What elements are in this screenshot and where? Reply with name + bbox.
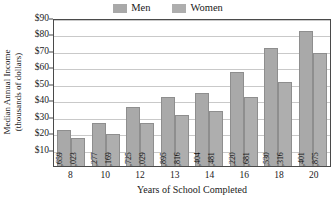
bar-women-13: 30,816 [175,115,189,166]
y-axis-tick-label: $30 [35,113,49,123]
y-axis-tick-label: $10 [35,146,49,156]
y-axis-tick-label: $50 [35,80,49,90]
bar-value-label: 51,316 [277,152,285,167]
x-axis-tick-label: 12 [123,169,158,182]
bar-men-20: 82,401 [299,31,313,167]
bar-women-16: 41,681 [244,97,258,166]
men-swatch [113,4,127,13]
bar-women-18: 51,316 [278,82,292,166]
x-axis-tick-label: 14 [192,169,227,182]
plot-area: 21,65917,02326,27719,16935,72526,02941,8… [53,19,331,167]
bar-value-label: 68,875 [312,152,320,167]
y-axis-tick-label: $90 [35,14,49,24]
bar-value-label: 30,816 [174,152,182,167]
bar-value-label: 33,481 [208,152,216,167]
y-axis-tick-label: $60 [35,64,49,74]
bar-women-12: 26,029 [140,123,154,166]
x-axis-title: Years of School Completed [53,184,331,195]
x-axis-tick-label: 10 [88,169,123,182]
bar-group-16: 57,22041,681 [227,20,262,166]
bar-group-14: 44,40433,481 [192,20,227,166]
bar-group-13: 41,89530,816 [158,20,193,166]
x-axis-tick-label: 8 [53,169,88,182]
legend-item-men: Men [113,3,150,14]
bar-group-8: 21,65917,023 [54,20,89,166]
y-axis-title: Median Annual Income (thousands of dolla… [0,16,26,168]
y-axis-tick-label: $80 [35,31,49,41]
bar-value-label: 26,029 [139,152,147,167]
y-axis-title-line2: (thousands of dollars) [13,50,24,135]
x-axis-tick-label: 13 [157,169,192,182]
y-axis-tick-label: $70 [35,47,49,57]
bar-value-label: 26,277 [91,152,99,167]
bar-value-label: 71,530 [263,152,271,167]
bar-value-label: 17,023 [70,152,78,167]
legend-label-women: Women [190,3,222,14]
bar-groups: 21,65917,02326,27719,16935,72526,02941,8… [54,20,330,166]
bar-women-14: 33,481 [209,111,223,166]
bar-value-label: 82,401 [298,152,306,167]
bar-value-label: 57,220 [229,152,237,167]
y-axis-tick-label: $20 [35,129,49,139]
x-axis-tick-label: 20 [296,169,331,182]
x-axis-tick-label: 18 [262,169,297,182]
y-axis-tick-label: $40 [35,96,49,106]
women-swatch [172,4,186,13]
bar-group-18: 71,53051,316 [261,20,296,166]
bar-women-20: 68,875 [313,53,327,166]
bar-value-label: 35,725 [125,152,133,167]
bar-group-12: 35,72526,029 [123,20,158,166]
x-axis-tick-label: 16 [227,169,262,182]
legend-label-men: Men [131,3,150,14]
legend-item-women: Women [172,3,222,14]
bar-value-label: 44,404 [194,152,202,167]
bar-women-8: 17,023 [71,138,85,166]
y-axis-title-line1: Median Annual Income [2,50,12,135]
chart-legend: MenWomen [0,1,336,15]
bar-women-10: 19,169 [106,134,120,166]
bar-value-label: 41,895 [160,152,168,167]
bar-group-10: 26,27719,169 [89,20,124,166]
bar-men-18: 71,530 [264,48,278,166]
bar-chart: MenWomen Median Annual Income (thousands… [0,0,336,206]
bar-group-20: 82,40168,875 [296,20,331,166]
bar-value-label: 41,681 [243,152,251,167]
y-axis-labels: $90$80$70$60$50$40$30$20$10 [24,19,53,167]
bar-value-label: 19,169 [105,152,113,167]
x-axis-labels: 810121314161820 [53,169,331,182]
bar-value-label: 21,659 [56,152,64,167]
